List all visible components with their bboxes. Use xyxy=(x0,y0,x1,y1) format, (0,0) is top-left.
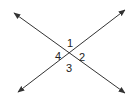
angle-label-4: 4 xyxy=(55,50,61,62)
line-b xyxy=(18,10,125,92)
diagram-canvas: 1 2 3 4 xyxy=(0,0,132,99)
angle-label-1: 1 xyxy=(67,37,73,49)
angle-label-2: 2 xyxy=(79,51,85,63)
vertical-angles-diagram: 1 2 3 4 xyxy=(0,0,132,99)
angle-label-3: 3 xyxy=(66,62,72,74)
